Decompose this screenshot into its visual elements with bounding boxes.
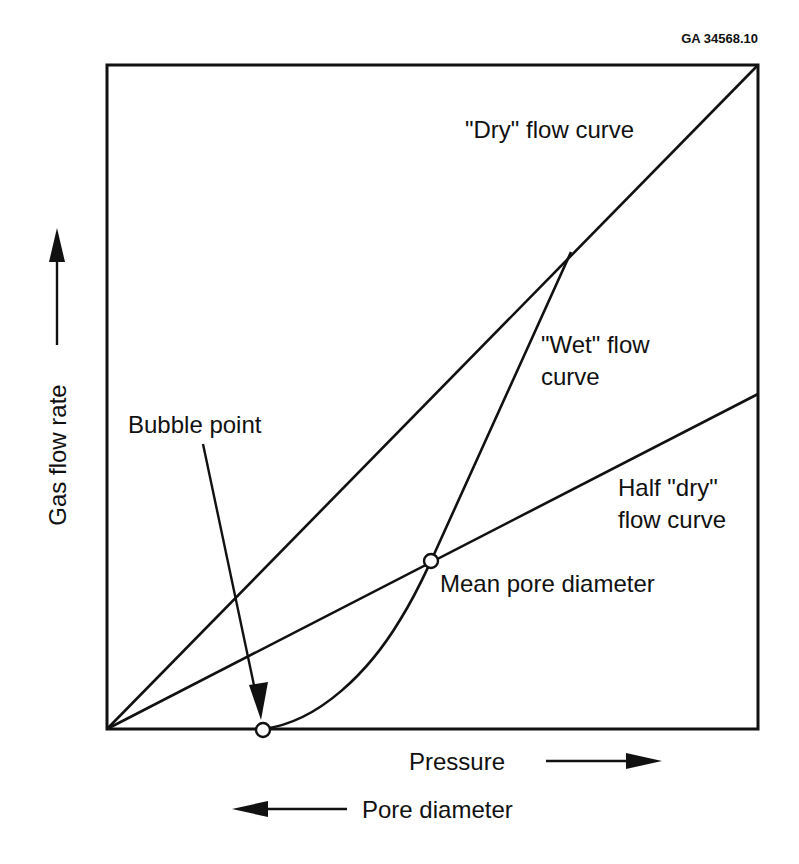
chart-figure: GA 34568.10 "Dry" flow curve "Wet" flow … <box>0 0 799 864</box>
bubble-point-marker <box>256 723 270 737</box>
pore-diameter-arrow-icon <box>232 801 268 817</box>
x-axis-arrow-icon <box>626 753 662 769</box>
dry-flow-line <box>107 65 758 729</box>
bubble-point-label: Bubble point <box>128 411 262 438</box>
x-axis-label: Pressure <box>409 748 505 775</box>
mean-pore-marker <box>424 554 438 568</box>
bubble-point-arrowhead-icon <box>249 682 268 720</box>
mean-pore-label: Mean pore diameter <box>440 570 655 597</box>
wet-curve-label-line1: "Wet" flow <box>541 331 650 358</box>
y-axis-label: Gas flow rate <box>44 384 71 525</box>
half-dry-label-line2: flow curve <box>618 506 726 533</box>
y-axis-arrow-icon <box>49 228 65 262</box>
half-dry-label-line1: Half "dry" <box>618 474 718 501</box>
bubble-point-arrow-shaft <box>203 444 255 690</box>
figure-id: GA 34568.10 <box>681 31 758 46</box>
pore-diameter-label: Pore diameter <box>362 796 513 823</box>
dry-curve-label: "Dry" flow curve <box>465 116 634 143</box>
wet-curve-label-line2: curve <box>541 363 600 390</box>
wet-flow-curve <box>263 252 571 729</box>
